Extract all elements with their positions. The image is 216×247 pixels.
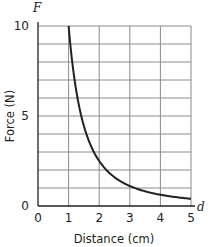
y-tick-label: 5 <box>21 109 29 123</box>
x-axis-label: Distance (cm) <box>74 232 154 246</box>
x-tick-label: 0 <box>34 211 42 225</box>
x-tick-label: 4 <box>157 211 165 225</box>
x-tick-label: 2 <box>95 211 103 225</box>
y-tick-label: 10 <box>14 19 29 33</box>
y-axis-variable: F <box>32 1 42 15</box>
y-tick-label: 0 <box>21 199 29 213</box>
y-axis-label: Force (N) <box>3 90 17 142</box>
x-tick-label: 1 <box>65 211 73 225</box>
x-tick-label: 5 <box>187 211 195 225</box>
chart: 012345 0510 d F Distance (cm) Force (N) <box>0 0 216 247</box>
x-axis-variable: d <box>197 200 205 214</box>
x-tick-label: 3 <box>126 211 134 225</box>
grid-lines <box>38 26 191 206</box>
x-tick-labels: 012345 <box>34 211 195 225</box>
